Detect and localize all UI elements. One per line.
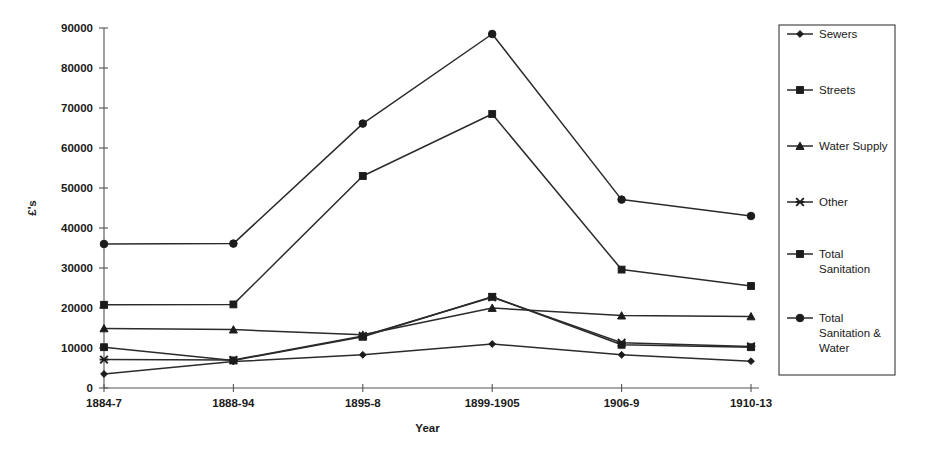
legend-label: Sanitation	[819, 263, 870, 275]
marker-diamond-point	[618, 351, 625, 358]
chart-canvas: 0100002000030000400005000060000700008000…	[0, 0, 946, 459]
legend-label: Total	[819, 248, 843, 260]
x-tick-label: 1899-1905	[465, 397, 521, 409]
marker-circle-point	[618, 196, 626, 204]
marker-diamond-point	[101, 371, 108, 378]
marker-square-point	[230, 301, 237, 308]
legend-label: Total	[819, 312, 843, 324]
y-tick-label: 60000	[61, 142, 93, 154]
y-tick-label: 80000	[61, 62, 93, 74]
y-tick-label: 0	[87, 382, 93, 394]
y-tick-label: 30000	[61, 262, 93, 274]
y-tick-label: 40000	[61, 222, 93, 234]
y-axis-title: £'s	[26, 200, 38, 216]
legend-label: Other	[819, 196, 848, 208]
marker-circle-point	[230, 240, 238, 248]
x-tick-label: 1910-13	[730, 397, 772, 409]
legend-label: Water	[819, 342, 849, 354]
legend-label: Sewers	[819, 28, 858, 40]
y-tick-label: 20000	[61, 302, 93, 314]
legend-label: Streets	[819, 84, 856, 96]
series-polyline	[104, 308, 751, 335]
series-plot-area	[100, 30, 756, 377]
marker-diamond-legend	[797, 31, 804, 38]
x-tick-label: 1888-94	[212, 397, 255, 409]
marker-asterisk-legend	[796, 198, 805, 206]
marker-square-point	[101, 344, 108, 351]
y-axis: 0100002000030000400005000060000700008000…	[61, 22, 108, 394]
x-tick-label: 1895-8	[345, 397, 381, 409]
marker-square-legend	[797, 251, 804, 258]
marker-circle-point	[488, 30, 496, 38]
series-polyline	[104, 344, 751, 374]
marker-square-point	[748, 283, 755, 290]
marker-diamond-point	[359, 351, 366, 358]
x-axis-title: Year	[415, 422, 440, 434]
series-total-sanitation-water	[100, 30, 755, 248]
marker-diamond-point	[489, 341, 496, 348]
legend-label: Water Supply	[819, 140, 888, 152]
marker-circle-legend	[796, 314, 804, 322]
x-tick-label: 1884-7	[86, 397, 122, 409]
marker-square-point	[101, 301, 108, 308]
series-polyline	[104, 114, 751, 305]
legend-item-total-sanitation-water[interactable]: TotalSanitation &Water	[787, 312, 881, 354]
marker-circle-point	[359, 120, 367, 128]
legend-item-streets[interactable]: Streets	[787, 84, 856, 96]
marker-circle-point	[100, 240, 108, 248]
legend-item-water-supply[interactable]: Water Supply	[787, 140, 888, 152]
series-polyline	[104, 34, 751, 244]
marker-circle-point	[747, 212, 755, 220]
legend-item-total-sanitation[interactable]: TotalSanitation	[787, 248, 870, 275]
marker-square-point	[618, 266, 625, 273]
y-tick-label: 70000	[61, 102, 93, 114]
legend-item-sewers[interactable]: Sewers	[787, 28, 858, 40]
series-water-supply	[100, 304, 755, 338]
marker-square-legend	[797, 87, 804, 94]
y-tick-label: 10000	[61, 342, 93, 354]
legend-item-other[interactable]: Other	[787, 196, 848, 208]
marker-square-point	[489, 111, 496, 118]
legend-label: Sanitation &	[819, 327, 881, 339]
y-tick-label: 50000	[61, 182, 93, 194]
marker-diamond-point	[748, 358, 755, 365]
chart-legend: SewersStreetsWater SupplyOtherTotalSanit…	[779, 25, 895, 375]
line-chart-figure: 0100002000030000400005000060000700008000…	[0, 0, 946, 459]
series-total-sanitation	[101, 111, 755, 309]
x-axis: 1884-71888-941895-81899-19051906-91910-1…	[86, 384, 772, 409]
y-tick-label: 90000	[61, 22, 93, 34]
marker-square-point	[359, 173, 366, 180]
x-tick-label: 1906-9	[604, 397, 640, 409]
